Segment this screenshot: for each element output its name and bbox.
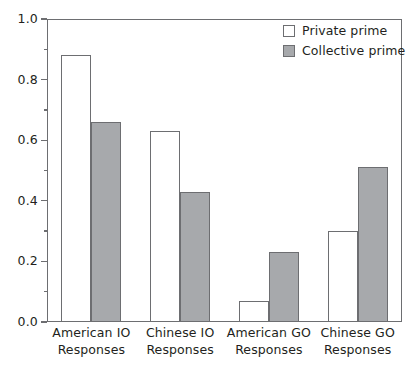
bar-chart: 0.00.20.40.60.81.0 American IOResponsesC…	[0, 0, 417, 376]
x-label-line-2: Responses	[313, 342, 402, 359]
legend-item-collective: Collective prime	[283, 42, 405, 59]
bar	[180, 192, 210, 322]
bars-layer	[47, 19, 402, 322]
x-axis-category-label: Chinese IOResponses	[136, 325, 225, 358]
legend-item-private: Private prime	[283, 22, 405, 39]
x-label-line-1: American GO	[227, 325, 311, 340]
x-axis-category-label: American GOResponses	[225, 325, 314, 358]
bar	[239, 301, 269, 322]
y-tick-label: 0.4	[18, 192, 38, 210]
x-label-line-1: American IO	[52, 325, 130, 340]
x-label-line-1: Chinese GO	[320, 325, 394, 340]
x-label-line-1: Chinese IO	[146, 325, 214, 340]
x-axis-category-label: American IOResponses	[47, 325, 136, 358]
y-tick-label: 0.8	[18, 71, 38, 89]
bar	[269, 252, 299, 322]
bar	[150, 131, 180, 322]
x-label-line-2: Responses	[47, 342, 136, 359]
y-tick-label: 0.6	[18, 131, 38, 149]
y-axis: 0.00.20.40.60.81.0	[0, 19, 47, 322]
legend-label-collective: Collective prime	[302, 44, 405, 58]
bar	[91, 122, 121, 322]
x-axis-labels: American IOResponsesChinese IOResponsesA…	[47, 325, 402, 375]
x-label-line-2: Responses	[225, 342, 314, 359]
y-tick-label: 0.2	[18, 252, 38, 270]
x-axis-category-label: Chinese GOResponses	[313, 325, 402, 358]
legend-label-private: Private prime	[302, 24, 387, 38]
legend: Private prime Collective prime	[283, 22, 405, 59]
x-label-line-2: Responses	[136, 342, 225, 359]
legend-swatch-collective-icon	[283, 45, 295, 57]
legend-swatch-private-icon	[283, 25, 295, 37]
y-tick-label: 0.0	[18, 313, 38, 331]
bar	[358, 167, 388, 322]
bar	[61, 55, 91, 322]
bar	[328, 231, 358, 322]
y-tick-label: 1.0	[18, 10, 38, 28]
